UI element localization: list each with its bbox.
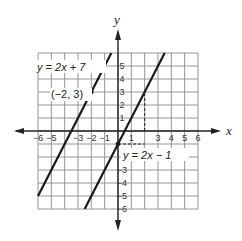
x-axis-label: x bbox=[225, 123, 232, 138]
y-tick-label: 4 bbox=[119, 74, 124, 84]
tick-labels: −6−5−3−2−11345654321−3−4−5−6 bbox=[33, 61, 201, 214]
x-tick-label: −5 bbox=[46, 133, 56, 143]
x-tick-label: −6 bbox=[33, 133, 43, 143]
x-tick-label: −1 bbox=[100, 133, 110, 143]
point-marker bbox=[116, 142, 121, 147]
point-label: (−2, 3) bbox=[51, 88, 83, 100]
x-tick-label: −2 bbox=[86, 133, 96, 143]
y-tick-label: 3 bbox=[119, 87, 124, 97]
x-axis-right-arrow-icon bbox=[211, 128, 221, 134]
plotted-line-1 bbox=[38, 53, 111, 196]
y-tick-label: 1 bbox=[119, 113, 124, 123]
x-tick-label: 3 bbox=[155, 133, 160, 143]
y-axis-label: y bbox=[112, 12, 120, 27]
x-tick-label: −3 bbox=[73, 133, 83, 143]
line1-equation-label: y = 2x + 7 bbox=[36, 61, 86, 73]
coordinate-graph: −6−5−3−2−11345654321−3−4−5−6 y x y = 2x … bbox=[0, 0, 242, 241]
y-tick-label: −4 bbox=[117, 178, 127, 188]
x-axis-left-arrow-icon bbox=[14, 128, 24, 134]
x-tick-label: 1 bbox=[129, 133, 134, 143]
y-tick-label: −5 bbox=[117, 191, 127, 201]
y-tick-label: 2 bbox=[119, 100, 124, 110]
y-tick-label: 5 bbox=[119, 61, 124, 71]
y-tick-label: −6 bbox=[117, 204, 127, 214]
x-tick-label: 4 bbox=[169, 133, 174, 143]
line2-equation-text: y = 2x − 1 bbox=[122, 149, 171, 161]
line2-equation-label: y = 2x − 1 bbox=[122, 149, 171, 161]
x-tick-label: 6 bbox=[195, 133, 200, 143]
line1-equation-text: y = 2x + 7 bbox=[36, 61, 86, 73]
y-axis-down-arrow-icon bbox=[115, 220, 121, 231]
y-axis-up-arrow-icon bbox=[115, 29, 121, 40]
x-tick-label: 5 bbox=[182, 133, 187, 143]
y-tick-label: −3 bbox=[117, 165, 127, 175]
